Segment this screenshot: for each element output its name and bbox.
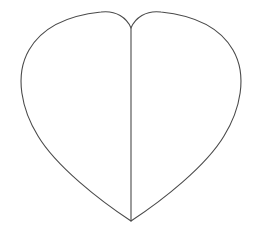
canvas-background (0, 0, 253, 236)
drawing-canvas: Heart Outline (0, 0, 253, 236)
heart-diagram (0, 0, 253, 236)
